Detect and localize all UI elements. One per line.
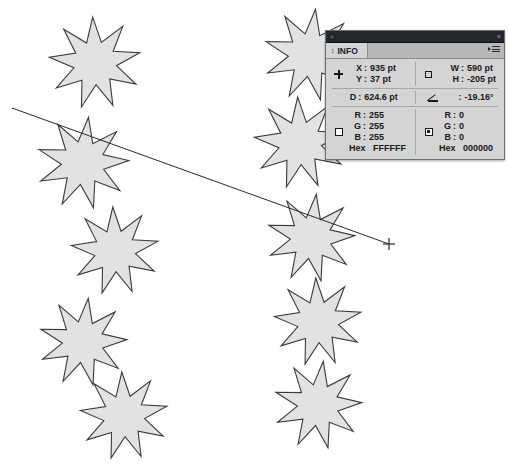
fill-b-label: B	[347, 132, 361, 143]
stroke-color-group[interactable]: R : 0 G : 0 B : 0 Hex	[415, 109, 504, 155]
field-h-value: -205 pt	[467, 74, 502, 85]
panel-body: X : 935 pt Y : 37 pt W	[326, 59, 504, 159]
nine-pointed-star[interactable]	[49, 17, 139, 107]
position-size-row: X : 935 pt Y : 37 pt W	[326, 62, 504, 86]
stroke-swatch-icon[interactable]	[420, 128, 437, 136]
position-group[interactable]: X : 935 pt Y : 37 pt	[326, 62, 415, 86]
field-y: Y : 37 pt	[347, 74, 413, 85]
fill-r: R : 255	[347, 110, 413, 121]
field-w-label: W	[437, 63, 459, 74]
field-x: X : 935 pt	[347, 63, 413, 74]
field-d-value: 624.6 pt	[364, 92, 398, 103]
fill-b: B : 255	[347, 132, 413, 143]
fill-r-label: R	[347, 110, 361, 121]
fill-swatch-icon[interactable]	[330, 128, 347, 136]
panel-titlebar[interactable]: »	[326, 31, 504, 43]
panel-drag-dot	[329, 34, 335, 40]
fill-g-label: G	[347, 121, 361, 132]
stroke-g-label: G	[437, 121, 451, 132]
fill-g-value: 255	[369, 121, 413, 132]
stroke-r: R : 0	[437, 110, 502, 121]
fill-color-group[interactable]: R : 255 G : 255 B : 255 He	[326, 109, 415, 155]
nine-pointed-star[interactable]	[274, 278, 361, 364]
divider-1	[332, 88, 498, 89]
field-h-label: H	[437, 74, 459, 85]
field-y-value: 37 pt	[370, 74, 413, 85]
field-angle: : -19.16°	[441, 92, 493, 103]
stroke-hex-label: Hex	[437, 143, 456, 154]
crosshair-cursor	[383, 238, 395, 250]
rectangle-icon	[420, 71, 437, 78]
chevron-down-icon	[488, 47, 491, 51]
field-h: H : -205 pt	[437, 74, 502, 85]
size-group[interactable]: W : 590 pt H : -205 pt	[415, 62, 504, 86]
nine-pointed-star[interactable]	[71, 207, 158, 293]
stroke-b: B : 0	[437, 132, 502, 143]
stroke-g-value: 0	[459, 121, 502, 132]
tab-info[interactable]: ↕ INFO	[326, 43, 368, 58]
divider-2	[332, 106, 498, 107]
stroke-r-label: R	[437, 110, 451, 121]
distance-angle-row: D : 624.6 pt : -19.16°	[326, 91, 504, 104]
hamburger-icon	[492, 46, 500, 52]
fill-hex-value: FFFFFF	[373, 143, 413, 154]
fill-hex: Hex FFFFFF	[347, 143, 413, 154]
angle-group[interactable]: : -19.16°	[415, 91, 504, 104]
collapse-panel-icon[interactable]: »	[497, 32, 500, 41]
field-w-value: 590 pt	[467, 63, 502, 74]
nine-pointed-star[interactable]	[41, 298, 127, 385]
stroke-hex: Hex 000000	[437, 143, 502, 154]
fill-b-value: 255	[369, 132, 413, 143]
distance-group[interactable]: D : 624.6 pt	[326, 91, 415, 104]
fill-g: G : 255	[347, 121, 413, 132]
field-angle-value: -19.16°	[464, 92, 493, 103]
field-y-label: Y	[347, 74, 362, 85]
field-x-value: 935 pt	[370, 63, 413, 74]
field-d: D : 624.6 pt	[341, 92, 398, 103]
nine-pointed-star[interactable]	[269, 194, 355, 281]
info-panel[interactable]: » ↕ INFO X : 935 pt	[325, 30, 505, 160]
stroke-r-value: 0	[459, 110, 502, 121]
stroke-hex-value: 000000	[463, 143, 502, 154]
tab-grip-icon: ↕	[331, 47, 335, 54]
field-x-label: X	[347, 63, 362, 74]
field-w: W : 590 pt	[437, 63, 502, 74]
fill-hex-label: Hex	[347, 143, 366, 154]
angle-icon	[424, 94, 441, 102]
color-row: R : 255 G : 255 B : 255 He	[326, 109, 504, 155]
nine-pointed-star[interactable]	[39, 117, 129, 207]
nine-pointed-star[interactable]	[276, 361, 362, 448]
stroke-g: G : 0	[437, 121, 502, 132]
panel-menu-button[interactable]	[488, 46, 500, 52]
field-d-label: D	[341, 92, 356, 103]
crosshair-icon	[330, 70, 347, 79]
tab-info-label: INFO	[338, 46, 358, 56]
panel-tab-row[interactable]: ↕ INFO	[326, 43, 504, 59]
fill-r-value: 255	[369, 110, 413, 121]
stroke-b-label: B	[437, 132, 451, 143]
stroke-b-value: 0	[459, 132, 502, 143]
